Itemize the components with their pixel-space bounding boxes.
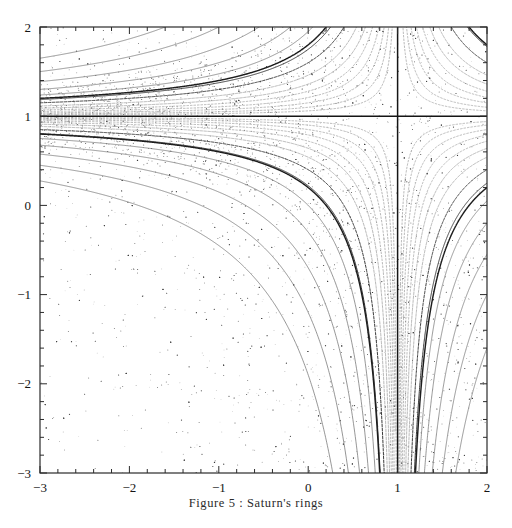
x-tick-label: 2 — [484, 480, 491, 495]
plot-canvas: −3−2−1012 −3−2−1012 — [0, 0, 512, 528]
x-tick-label: 0 — [305, 480, 312, 495]
canvas-background — [0, 0, 512, 528]
figure-caption: Figure 5 : Saturn's rings — [0, 496, 512, 511]
y-tick-label: −3 — [17, 466, 31, 481]
y-tick-label: −2 — [17, 376, 31, 391]
x-tick-label: −1 — [212, 480, 226, 495]
x-tick-label: −3 — [33, 480, 47, 495]
y-tick-label: 1 — [25, 109, 32, 124]
x-tick-label: 1 — [394, 480, 401, 495]
y-tick-label: 2 — [25, 20, 32, 35]
y-tick-label: −1 — [17, 287, 31, 302]
x-tick-label: −2 — [122, 480, 136, 495]
figure-saturns-rings: −3−2−1012 −3−2−1012 Figure 5 : Saturn's … — [0, 0, 512, 528]
y-tick-label: 0 — [25, 198, 32, 213]
